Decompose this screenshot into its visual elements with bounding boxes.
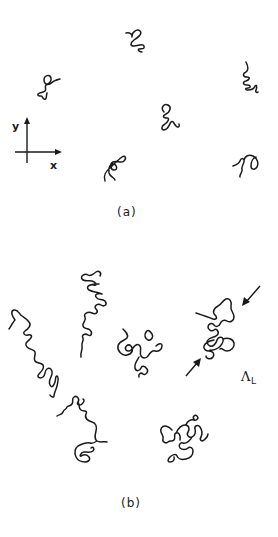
chain-b5 — [57, 396, 107, 462]
chain-a6 — [233, 155, 258, 177]
y-axis-label: y — [12, 120, 19, 133]
chain-b3 — [118, 329, 162, 377]
chain-b6 — [161, 415, 208, 462]
arrow-lower-left — [186, 363, 197, 376]
polymer-conformation-figure: y x (a) Λ L (b) — [0, 0, 278, 537]
lambda-subscript: L — [251, 376, 256, 386]
chain-a3 — [243, 62, 258, 92]
coordinate-axes: y x — [12, 117, 62, 172]
y-axis-arrowhead-icon — [24, 117, 30, 124]
x-axis-arrowhead-icon — [55, 149, 62, 155]
panel-b-caption: (b) — [121, 496, 141, 510]
chain-b2 — [9, 310, 58, 397]
lambda-symbol: Λ — [240, 369, 251, 384]
x-axis-label: x — [50, 159, 57, 172]
panel-a: y x (a) — [12, 30, 258, 219]
panel-a-caption: (a) — [117, 205, 137, 219]
chain-b4 — [196, 299, 234, 359]
arrow-upper-right — [246, 286, 260, 302]
chain-a4 — [162, 105, 179, 130]
compression-arrows — [186, 286, 260, 376]
chain-b1 — [81, 271, 106, 357]
chain-a1 — [126, 30, 144, 52]
chain-a2 — [38, 76, 60, 100]
lambda-l-label: Λ L — [240, 369, 256, 386]
panel-b: Λ L (b) — [9, 271, 260, 510]
chain-a5 — [104, 156, 125, 181]
